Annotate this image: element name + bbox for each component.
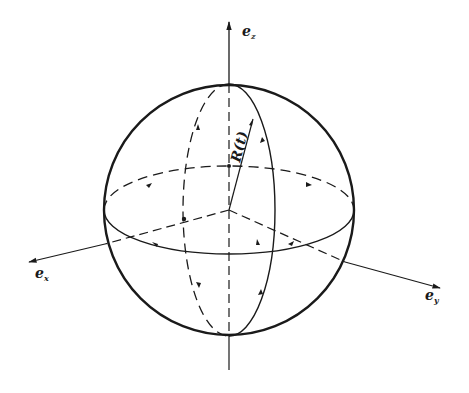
sphere-diagram: ez ex ey R(t) [0, 0, 469, 393]
intersection-dot [227, 164, 231, 168]
ey-label: ey [425, 287, 440, 305]
ex-label: ex [35, 265, 49, 283]
intersection-dot [182, 217, 186, 221]
radius-label: R(t) [227, 129, 250, 164]
ez-label: ez [242, 23, 256, 41]
